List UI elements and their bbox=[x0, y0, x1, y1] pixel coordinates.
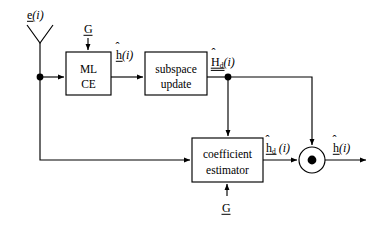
svg-text:G: G bbox=[84, 22, 93, 36]
svg-text:̂: ̂ bbox=[211, 48, 215, 50]
svg-text:̂: ̂ bbox=[266, 135, 270, 137]
signal-label-final-output: h(i) ̂ bbox=[333, 135, 351, 156]
svg-text:h(i): h(i) bbox=[333, 141, 350, 155]
block-label-coef-line2: estimator bbox=[206, 164, 249, 176]
svg-text:hd (i): hd (i) bbox=[266, 141, 290, 156]
junction-dot-left bbox=[37, 74, 44, 81]
svg-text:̂: ̂ bbox=[116, 42, 120, 44]
signal-label-antenna-input: e(i) bbox=[27, 8, 44, 22]
signal-label-ml-ce-gain: G bbox=[84, 22, 94, 36]
junction-dot-subspace bbox=[225, 74, 232, 81]
block-label-subspace-line1: subspace bbox=[155, 63, 197, 76]
svg-text:h(i): h(i) bbox=[116, 48, 133, 62]
block-label-subspace-line2: update bbox=[161, 78, 192, 91]
signal-label-coef-gain: G bbox=[222, 201, 232, 215]
block-label-coef-line1: coefficient bbox=[203, 148, 253, 160]
block-label-ml-ce-line2: CE bbox=[81, 78, 96, 90]
multiplier-dot-icon bbox=[308, 156, 317, 165]
svg-text:̂: ̂ bbox=[333, 135, 337, 137]
antenna-icon bbox=[27, 25, 53, 77]
block-label-ml-ce-line1: ML bbox=[80, 63, 97, 75]
svg-text:e(i): e(i) bbox=[27, 8, 44, 22]
signal-label-coef-output: hd (i) ̂ bbox=[266, 135, 290, 157]
block-diagram-canvas: ML CE subspace update coefficient estima… bbox=[0, 0, 377, 226]
signal-label-subspace-output: Hd(i) ̂ bbox=[211, 48, 235, 70]
svg-text:G: G bbox=[222, 201, 231, 215]
wire-junction-to-multiplier bbox=[228, 77, 312, 145]
signal-label-ml-ce-output: h(i) ̂ bbox=[116, 42, 134, 63]
